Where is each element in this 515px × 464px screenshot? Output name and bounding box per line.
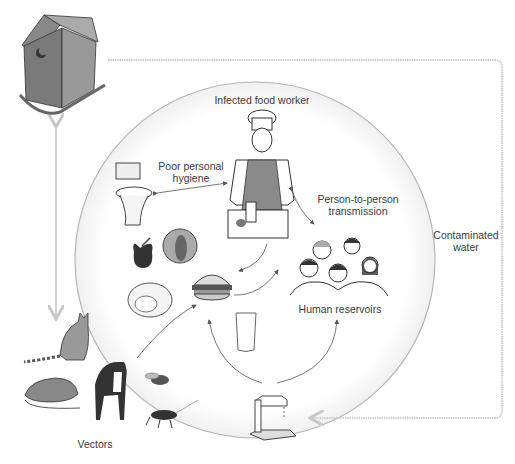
cabbage-icon (128, 283, 172, 317)
dog-icon (95, 362, 127, 420)
label-human-reservoirs: Human reservoirs (290, 303, 390, 315)
label-poor-personal-hygiene: Poor personal hygiene (150, 160, 232, 184)
glass-icon (236, 313, 256, 352)
label-water-line2: water (430, 241, 502, 253)
label-p2p-line2: transmission (310, 205, 406, 217)
label-contaminated-water: Contaminated water (430, 229, 502, 253)
label-p2p-line1: Person-to-person (310, 193, 406, 205)
cat-icon (24, 313, 89, 362)
label-infected-food-worker: Infected food worker (214, 94, 310, 106)
label-person-to-person: Person-to-person transmission (310, 193, 406, 217)
label-vectors: Vectors (70, 438, 120, 450)
outhouse-icon (20, 15, 105, 113)
label-hygiene-line2: hygiene (150, 172, 232, 184)
melon-icon (163, 229, 197, 263)
label-water-line1: Contaminated (430, 229, 502, 241)
rat-icon (25, 378, 80, 408)
label-hygiene-line1: Poor personal (150, 160, 232, 172)
